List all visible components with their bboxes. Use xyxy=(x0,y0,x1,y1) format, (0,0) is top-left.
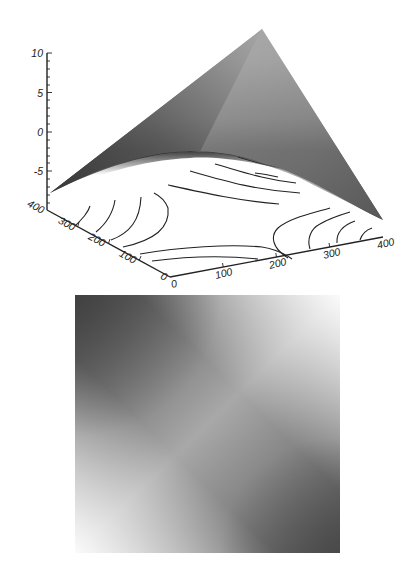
y-tick-label: 400 xyxy=(26,197,47,216)
y-tick-label: 300 xyxy=(57,214,78,233)
contour-line xyxy=(168,185,279,204)
z-tick-label: -5 xyxy=(34,165,43,177)
saddle-image xyxy=(75,295,340,553)
z-tick-label: 10 xyxy=(31,47,43,59)
y-axis: 400 300 200 100 0 xyxy=(26,197,170,283)
z-tick-label: 0 xyxy=(37,126,43,138)
x-axis: 0 100 200 300 400 xyxy=(170,235,396,290)
contour-line xyxy=(190,171,300,193)
contour-line xyxy=(123,193,168,247)
x-tick-label: 100 xyxy=(214,265,234,281)
z-axis: 10 5 0 -5 xyxy=(31,47,52,210)
contour-line xyxy=(152,257,258,261)
surface-plot: 10 5 0 -5 400 300 200 100 0 0 100 200 30… xyxy=(0,0,417,290)
y-tick-label: 100 xyxy=(118,247,139,266)
contour-line xyxy=(111,197,141,240)
x-tick-label: 200 xyxy=(267,255,288,271)
x-tick-label: 0 xyxy=(170,277,179,290)
contour-line xyxy=(360,228,372,240)
contour-line xyxy=(96,200,115,232)
saddle-surface xyxy=(50,29,383,220)
image-dark-bottomright xyxy=(75,295,340,553)
z-tick-label: 5 xyxy=(37,87,43,99)
contour-line xyxy=(337,221,355,243)
